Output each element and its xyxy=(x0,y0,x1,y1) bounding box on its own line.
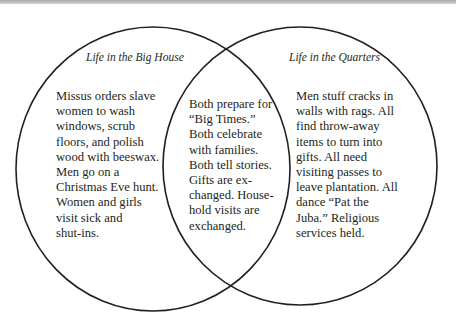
overlap-line: with families. xyxy=(189,143,274,158)
left-only-text: Missus orders slavewomen to washwindows,… xyxy=(56,89,159,241)
big-house-line: Christmas Eve hunt. xyxy=(56,180,159,195)
overlap-line: Both prepare for xyxy=(189,97,274,112)
big-house-line: visit sick and xyxy=(56,211,159,226)
left-circle-title: Life in the Big House xyxy=(86,51,184,63)
right-only-text: Men stuff cracks inwalls with rags. Allf… xyxy=(296,89,398,241)
overlap-line: changed. House- xyxy=(189,188,274,203)
overlap-line: hold visits are xyxy=(189,203,274,218)
overlap-line: exchanged. xyxy=(189,219,274,234)
quarters-line: dance “Pat the xyxy=(296,195,398,210)
overlap-line: “Big Times.” xyxy=(189,112,274,127)
quarters-line: leave plantation. All xyxy=(296,180,398,195)
quarters-line: services held. xyxy=(296,226,398,241)
overlap-line: Both tell stories. xyxy=(189,158,274,173)
big-house-line: wood with beeswax. xyxy=(56,150,159,165)
quarters-line: items to turn into xyxy=(296,135,398,150)
big-house-line: women to wash xyxy=(56,104,159,119)
overlap-line: Gifts are ex- xyxy=(189,173,274,188)
right-circle-title: Life in the Quarters xyxy=(289,51,380,63)
overlap-line: Both celebrate xyxy=(189,127,274,142)
big-house-line: Men go on a xyxy=(56,165,159,180)
overlap-text: Both prepare for“Big Times.”Both celebra… xyxy=(189,97,274,234)
quarters-line: visiting passes to xyxy=(296,165,398,180)
quarters-line: find throw-away xyxy=(296,119,398,134)
big-house-line: windows, scrub xyxy=(56,119,159,134)
big-house-line: Missus orders slave xyxy=(56,89,159,104)
big-house-line: shut-ins. xyxy=(56,226,159,241)
quarters-line: Men stuff cracks in xyxy=(296,89,398,104)
big-house-line: floors, and polish xyxy=(56,135,159,150)
quarters-line: Juba.” Religious xyxy=(296,211,398,226)
big-house-line: Women and girls xyxy=(56,195,159,210)
quarters-line: walls with rags. All xyxy=(296,104,398,119)
quarters-line: gifts. All need xyxy=(296,150,398,165)
